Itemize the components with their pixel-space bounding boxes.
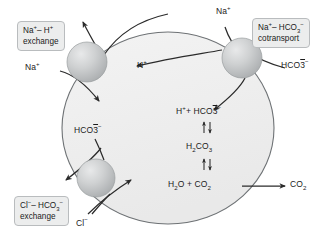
callout-cl-hco3-exchange-line2: exchange: [20, 211, 63, 222]
callout-cl-hco3-exchange-line1: Cl−– HCO3−: [20, 200, 63, 211]
label-na-extracellular-left: Na+: [25, 62, 40, 73]
reaction-step-1: H++ HCO3−: [176, 106, 221, 117]
label-hco3-extracellular-right: HCO3−: [281, 60, 309, 71]
reaction-step-3: H2O + CO2: [168, 179, 211, 190]
callout-na-hco3-cotransport-line2: cotransport: [258, 33, 304, 44]
reaction-step-2: H2CO3: [186, 141, 212, 152]
cl-hco3-exchanger-transporter: [77, 159, 115, 197]
acid-base-transport-diagram: Na+– H+ exchange Na+– HCO3− cotransport …: [0, 0, 335, 242]
callout-cl-hco3-exchange: Cl−– HCO3− exchange: [14, 196, 69, 226]
callout-na-h-exchange-line2: exchange: [23, 36, 59, 47]
label-co2-extracellular: CO2: [290, 179, 306, 190]
callout-na-hco3-cotransport-line1: Na+– HCO3−: [258, 22, 304, 33]
label-cl-extracellular: Cl−: [76, 218, 88, 229]
label-na-extracellular-top: Na+: [216, 6, 231, 17]
callout-na-h-exchange-line1: Na+– H+: [23, 25, 59, 36]
na-h-exchanger-transporter: [67, 42, 107, 82]
callout-na-hco3-cotransport: Na+– HCO3− cotransport: [252, 18, 310, 48]
label-hco3-intracellular: HCO3−: [74, 125, 102, 136]
label-h-intracellular: H+: [137, 60, 147, 71]
callout-na-h-exchange: Na+– H+ exchange: [17, 21, 65, 51]
